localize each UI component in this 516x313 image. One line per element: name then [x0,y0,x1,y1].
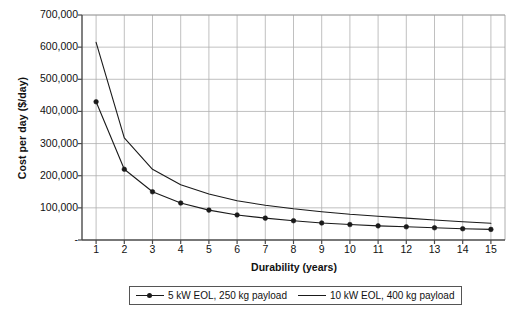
data-point [404,225,409,230]
legend-entry: 10 kW EOL, 400 kg payload [298,291,455,301]
data-point [291,218,296,223]
legend-label: 10 kW EOL, 400 kg payload [330,291,455,301]
y-tick-label: 600,000 [14,40,78,52]
x-tick-label: 1 [83,243,109,255]
y-axis-tick-labels: 700,000600,000500,000400,000300,000200,0… [10,0,78,313]
data-point [207,208,212,213]
data-point [150,189,155,194]
x-tick-label: 12 [393,243,419,255]
x-tick-label: 10 [337,243,363,255]
x-tick-label: 7 [252,243,278,255]
x-tick-label: 2 [111,243,137,255]
data-point [319,221,324,226]
legend-label: 5 kW EOL, 250 kg payload [168,291,287,301]
y-tick-label: 100,000 [14,201,78,213]
x-tick-label: 14 [450,243,476,255]
data-point [178,201,183,206]
x-tick-label: 15 [478,243,504,255]
x-tick-label: 13 [422,243,448,255]
y-tick-label: 500,000 [14,72,78,84]
legend-line-icon [298,291,326,301]
y-tick-label: 700,000 [14,8,78,20]
data-point [122,167,127,172]
data-point [489,227,494,232]
x-tick-label: 11 [365,243,391,255]
x-tick-label: 9 [309,243,335,255]
data-point [432,225,437,230]
data-point [460,226,465,231]
data-point [94,99,99,104]
chart-legend: 5 kW EOL, 250 kg payload10 kW EOL, 400 k… [129,286,462,305]
x-tick-label: 3 [140,243,166,255]
legend-entry: 5 kW EOL, 250 kg payload [136,291,287,301]
data-point [376,224,381,229]
x-axis-title: Durability (years) [82,261,506,273]
data-point [263,216,268,221]
legend-line-icon [136,291,164,301]
y-tick-label: 200,000 [14,169,78,181]
data-point [235,213,240,218]
x-tick-label: 8 [281,243,307,255]
x-tick-label: 6 [224,243,250,255]
y-tick-label: 400,000 [14,104,78,116]
y-tick-label: 300,000 [14,137,78,149]
x-tick-label: 5 [196,243,222,255]
data-point [348,222,353,227]
cost-per-day-chart: Cost per day ($/day) 700,000600,000500,0… [0,0,516,313]
x-axis-tick-labels: 123456789101112131415 [0,243,516,261]
x-tick-label: 4 [168,243,194,255]
